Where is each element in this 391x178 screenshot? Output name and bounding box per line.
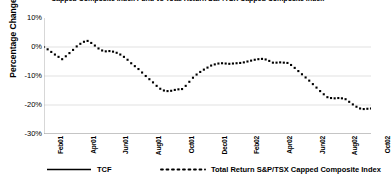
x-axis-tick-label: Feb02 <box>253 136 260 162</box>
data-point <box>217 62 219 64</box>
legend-label-tcf: TCF <box>97 165 112 174</box>
data-point <box>87 40 89 42</box>
data-point <box>283 62 285 64</box>
data-point <box>148 78 150 80</box>
x-axis-tick-label: Aug02 <box>351 136 358 162</box>
data-point <box>94 45 96 47</box>
data-point <box>112 51 114 53</box>
data-point <box>297 70 299 72</box>
x-axis-tick-label: Feb01 <box>57 136 64 162</box>
data-point <box>119 53 121 55</box>
data-point <box>355 106 357 108</box>
x-axis-tick-label: Oct01 <box>188 136 195 162</box>
data-point <box>141 71 143 73</box>
data-point <box>137 68 139 70</box>
data-point <box>308 80 310 82</box>
data-point <box>130 62 132 64</box>
data-point <box>228 63 230 65</box>
data-point <box>305 76 307 78</box>
legend-label-index: Total Return S&P/TSX Capped Composite In… <box>211 165 381 174</box>
data-point <box>341 97 343 99</box>
x-axis-tick-label: Jun01 <box>122 136 129 162</box>
data-point <box>243 61 245 63</box>
data-point <box>214 63 216 65</box>
data-point <box>294 67 296 69</box>
y-axis-tick-label: -10% <box>6 72 42 80</box>
data-series-layer <box>44 40 371 110</box>
data-point <box>366 108 368 110</box>
y-axis-tick-label: -20% <box>6 101 42 109</box>
data-point <box>275 62 277 64</box>
data-point <box>370 107 371 109</box>
data-point <box>188 81 190 83</box>
x-axis-tick-label: Jun02 <box>319 136 326 162</box>
data-point <box>105 50 107 52</box>
data-point <box>286 62 288 64</box>
plot-area <box>44 18 371 134</box>
plot-svg <box>44 18 371 134</box>
data-point <box>83 41 85 43</box>
data-point <box>359 107 361 109</box>
data-point <box>236 62 238 64</box>
data-point <box>123 56 125 58</box>
data-point <box>196 74 198 76</box>
x-axis-tick-label: Apr01 <box>90 136 97 162</box>
data-point <box>54 53 56 55</box>
data-point <box>159 88 161 90</box>
data-point <box>326 96 328 98</box>
data-point <box>246 60 248 62</box>
data-point <box>145 75 147 77</box>
data-point <box>101 49 103 51</box>
data-point <box>156 85 158 87</box>
data-point <box>330 97 332 99</box>
data-point <box>108 50 110 52</box>
data-point <box>352 103 354 105</box>
solid-line-icon <box>46 165 92 174</box>
data-point <box>272 62 274 64</box>
legend-item-index: Total Return S&P/TSX Capped Composite In… <box>160 163 381 175</box>
data-point <box>268 60 270 62</box>
chart-title: Capped Composite Index Fund vs Total Ret… <box>0 0 375 3</box>
data-point <box>174 89 176 91</box>
data-point <box>72 49 74 51</box>
data-point <box>265 58 267 60</box>
data-point <box>61 58 63 60</box>
data-point <box>250 60 252 62</box>
data-point <box>337 97 339 99</box>
data-point <box>206 67 208 69</box>
data-point <box>76 45 78 47</box>
data-point <box>163 89 165 91</box>
gridlines <box>44 47 371 134</box>
x-axis-tick-label: Dec01 <box>221 136 228 162</box>
x-axis-tick-label: Apr02 <box>286 136 293 162</box>
data-point <box>185 85 187 87</box>
data-point <box>312 83 314 85</box>
data-point <box>199 71 201 73</box>
data-point <box>345 98 347 100</box>
data-point <box>232 62 234 64</box>
data-point <box>254 59 256 61</box>
data-point <box>152 81 154 83</box>
data-point <box>116 52 118 54</box>
data-point <box>210 65 212 67</box>
data-point <box>97 47 99 49</box>
data-point <box>134 65 136 67</box>
data-point <box>323 93 325 95</box>
data-point <box>68 52 70 54</box>
x-axis-tick-label: Aug01 <box>155 136 162 162</box>
data-point <box>170 90 172 92</box>
legend-item-tcf: TCF <box>46 163 112 175</box>
data-point <box>239 62 241 64</box>
data-point <box>221 62 223 64</box>
data-point <box>65 55 67 57</box>
data-point <box>47 48 49 50</box>
data-point <box>261 58 263 60</box>
data-point <box>57 56 59 58</box>
data-point <box>181 88 183 90</box>
x-axis-tick-labels: Feb01Apr01Jun01Aug01Oct01Dec01Feb02Apr02… <box>0 136 375 162</box>
data-point <box>79 43 81 45</box>
dotted-line-icon <box>160 165 206 174</box>
data-point <box>319 90 321 92</box>
y-axis-tick-label: 0% <box>6 43 42 51</box>
